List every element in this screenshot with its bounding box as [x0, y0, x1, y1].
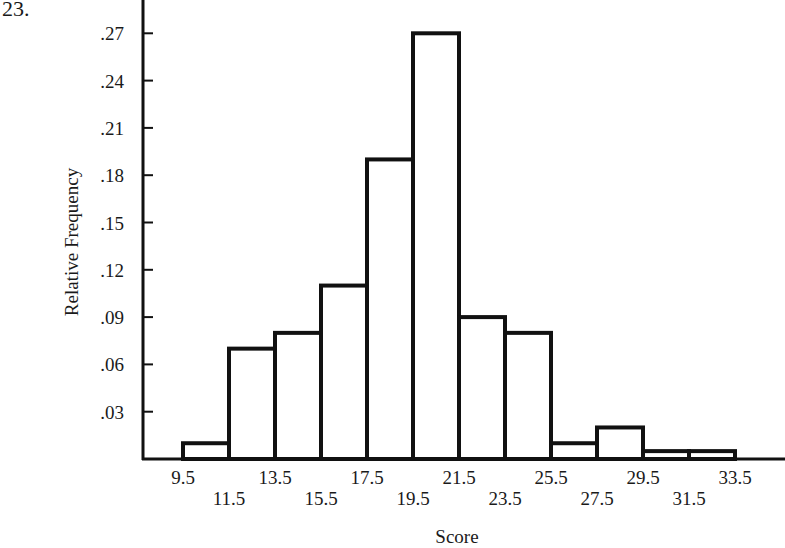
histogram-bar	[505, 333, 551, 459]
y-tick-label: .12	[100, 260, 124, 281]
histogram-bar	[275, 333, 321, 459]
x-tick-label: 27.5	[580, 488, 613, 509]
x-tick-label: 13.5	[258, 467, 291, 488]
x-tick-label: 11.5	[213, 488, 246, 509]
x-tick-label: 9.5	[171, 467, 195, 488]
y-tick-label: .24	[100, 71, 124, 92]
x-tick-label: 29.5	[626, 467, 659, 488]
x-tick-label: 15.5	[304, 488, 337, 509]
y-tick-label: .21	[100, 118, 124, 139]
histogram-bar	[459, 317, 505, 459]
y-tick-label: .06	[100, 354, 124, 375]
histogram-bar	[551, 443, 597, 459]
histogram-bar	[413, 33, 459, 459]
x-tick-label: 19.5	[396, 488, 429, 509]
histogram-bar	[229, 349, 275, 459]
x-axis-label: Score	[435, 526, 478, 547]
x-tick-label: 33.5	[718, 467, 751, 488]
histogram-bar	[321, 286, 367, 459]
histogram-bar	[183, 443, 229, 459]
histogram-bars	[183, 33, 735, 459]
y-tick-label: .18	[100, 165, 124, 186]
histogram-bar	[597, 427, 643, 459]
y-tick-label: .27	[100, 23, 124, 44]
x-tick-label: 25.5	[534, 467, 567, 488]
x-tick-label: 21.5	[442, 467, 475, 488]
x-tick-label: 17.5	[350, 467, 383, 488]
y-tick-label: .03	[100, 402, 124, 423]
y-tick-label: .09	[100, 307, 124, 328]
y-axis-label: Relative Frequency	[61, 167, 82, 316]
histogram-bar	[367, 159, 413, 459]
y-axis-ticks: .03.06.09.12.15.18.21.24.27	[100, 23, 153, 422]
x-axis-ticks: 9.513.517.521.525.529.533.511.515.519.52…	[171, 467, 752, 509]
histogram-chart: .03.06.09.12.15.18.21.24.27 9.513.517.52…	[0, 0, 785, 548]
x-tick-label: 31.5	[672, 488, 705, 509]
x-tick-label: 23.5	[488, 488, 521, 509]
y-tick-label: .15	[100, 213, 124, 234]
